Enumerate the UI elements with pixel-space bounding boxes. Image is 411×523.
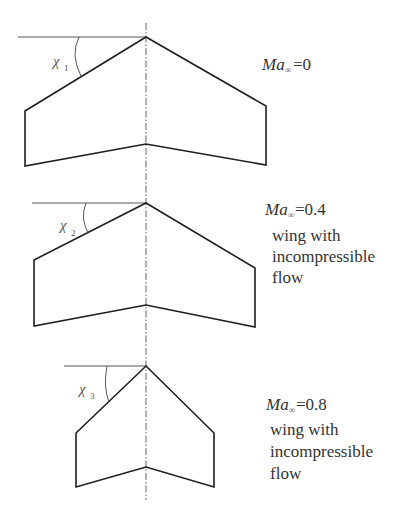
mach-label-3: Ma [265, 395, 289, 414]
description-line-2-3: flow [272, 268, 304, 287]
wing-planform-1 [25, 37, 266, 166]
sweep-angle-arc-1 [75, 37, 81, 76]
description-line-2-2: incompressible [272, 247, 375, 266]
wing-panel-2: χ 2 Ma ∞ =0.4 wing with incompressible f… [32, 200, 375, 327]
sweep-angle-arc-3 [105, 366, 109, 402]
mach-value-1: =0 [293, 55, 311, 74]
description-line-3-2: incompressible [270, 442, 373, 461]
wing-panel-1: χ 1 Ma ∞ =0 [18, 37, 311, 166]
mach-value-2: =0.4 [295, 200, 326, 219]
description-line-2-1: wing with [272, 226, 341, 245]
wing-panel-3: χ 3 Ma ∞ =0.8 wing with incompressible f… [64, 366, 373, 487]
sweep-angle-label-3: χ [77, 381, 86, 397]
sweep-angle-subscript-2: 2 [71, 228, 76, 238]
mach-label-2: Ma [264, 200, 288, 219]
swept-wing-diagram: χ 1 Ma ∞ =0 χ 2 Ma ∞ =0.4 wing with inco… [0, 0, 411, 523]
mach-value-3: =0.8 [296, 395, 327, 414]
sweep-angle-label-2: χ [58, 217, 67, 233]
sweep-angle-label-1: χ [51, 53, 60, 69]
description-line-3-1: wing with [270, 420, 339, 439]
sweep-angle-subscript-1: 1 [64, 63, 69, 73]
wing-planform-3 [76, 366, 214, 487]
sweep-angle-subscript-3: 3 [90, 391, 95, 401]
description-line-3-3: flow [270, 464, 302, 483]
mach-subscript-1: ∞ [285, 65, 291, 75]
mach-label-1: Ma [261, 55, 285, 74]
sweep-angle-arc-2 [83, 203, 88, 233]
mach-subscript-3: ∞ [289, 405, 295, 415]
wing-planform-2 [34, 203, 255, 327]
mach-subscript-2: ∞ [288, 210, 294, 220]
